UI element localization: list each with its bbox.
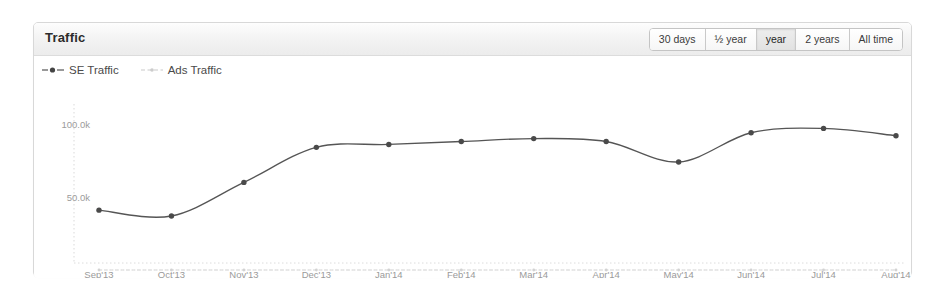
traffic-widget-root: Traffic 30 days ½ year year 2 years All … (0, 0, 944, 301)
chart-svg: 100.0k50.0k Sep'13Oct'13Nov'13Dec'13Jan'… (34, 56, 911, 278)
range-button-year[interactable]: year (757, 29, 796, 50)
chart-legend: SE Traffic Ads Traffic (42, 64, 222, 76)
series-ads-traffic (98, 269, 898, 272)
range-button-2-years[interactable]: 2 years (796, 29, 849, 50)
legend-item-se-traffic[interactable]: SE Traffic (42, 64, 119, 76)
range-selector[interactable]: 30 days ½ year year 2 years All time (649, 28, 903, 51)
solid-line-dot-marker-icon (42, 65, 64, 75)
panel-body: 100.0k50.0k Sep'13Oct'13Nov'13Dec'13Jan'… (34, 56, 911, 278)
legend-label-ads-traffic: Ads Traffic (168, 64, 222, 76)
page-title: Traffic (45, 30, 85, 45)
legend-item-ads-traffic[interactable]: Ads Traffic (141, 64, 222, 76)
series-se-traffic (96, 126, 898, 219)
panel-header: Traffic 30 days ½ year year 2 years All … (34, 23, 911, 56)
traffic-chart: 100.0k50.0k Sep'13Oct'13Nov'13Dec'13Jan'… (34, 56, 911, 278)
svg-text:100.0k: 100.0k (61, 119, 90, 130)
range-button-all-time[interactable]: All time (850, 29, 902, 50)
svg-text:50.0k: 50.0k (67, 192, 90, 203)
range-button-half-year[interactable]: ½ year (706, 29, 757, 50)
traffic-panel: Traffic 30 days ½ year year 2 years All … (33, 22, 912, 277)
range-button-30-days[interactable]: 30 days (650, 29, 706, 50)
chart-y-ticks: 100.0k50.0k (61, 119, 90, 203)
legend-label-se-traffic: SE Traffic (69, 64, 119, 76)
dashed-line-marker-icon (141, 65, 163, 75)
